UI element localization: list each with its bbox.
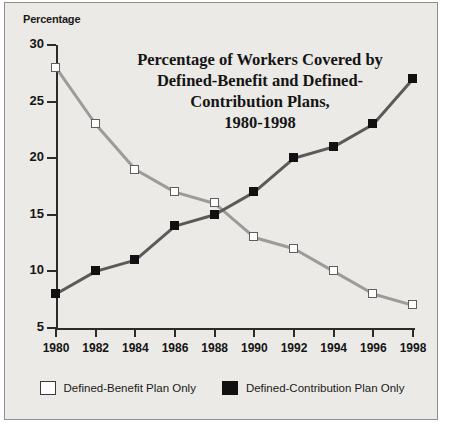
x-tick-mark	[174, 328, 176, 337]
chart-title: Percentage of Workers Covered byDefined-…	[125, 49, 395, 133]
x-tick-mark	[412, 328, 414, 337]
x-axis-line	[56, 328, 415, 330]
chart-title-line: Contribution Plans,	[125, 91, 395, 112]
data-point	[329, 266, 338, 275]
y-tick-label: 30	[10, 36, 44, 51]
data-point	[51, 63, 60, 72]
legend-label: Defined-Benefit Plan Only	[64, 382, 196, 394]
data-point	[130, 165, 139, 174]
data-point	[170, 187, 179, 196]
data-point	[368, 289, 377, 298]
data-point	[329, 142, 338, 151]
x-tick-mark	[134, 328, 136, 337]
y-tick-label: 5	[10, 319, 44, 334]
data-point	[51, 289, 60, 298]
x-tick-label: 1998	[383, 341, 443, 355]
y-tick-label: 20	[10, 149, 44, 164]
x-tick-mark	[372, 328, 374, 337]
data-point	[249, 187, 258, 196]
y-tick-mark	[47, 270, 56, 272]
y-tick-mark	[47, 44, 56, 46]
data-point	[91, 119, 100, 128]
data-point	[210, 198, 219, 207]
x-tick-mark	[333, 328, 335, 337]
x-tick-mark	[95, 328, 97, 337]
data-point	[289, 244, 298, 253]
legend-swatch-open-square-icon	[40, 381, 56, 395]
data-point	[249, 232, 258, 241]
chart-frame: Percentage 30252015105 19801982198419861…	[4, 2, 438, 420]
x-tick-mark	[253, 328, 255, 337]
chart-title-line: 1980-1998	[125, 112, 395, 133]
chart-title-line: Percentage of Workers Covered by	[125, 49, 395, 70]
data-point	[170, 221, 179, 230]
data-point	[289, 153, 298, 162]
legend-swatch-filled-square-icon	[222, 381, 238, 395]
data-point	[408, 74, 417, 83]
x-tick-mark	[293, 328, 295, 337]
y-tick-label: 10	[10, 262, 44, 277]
x-tick-mark	[55, 328, 57, 337]
data-point	[210, 210, 219, 219]
y-tick-mark	[47, 101, 56, 103]
y-tick-label: 25	[10, 93, 44, 108]
data-point	[91, 266, 100, 275]
y-tick-mark	[47, 157, 56, 159]
y-axis-label: Percentage	[23, 13, 80, 25]
y-tick-label: 15	[10, 206, 44, 221]
legend-item[interactable]: Defined-Contribution Plan Only	[222, 381, 405, 395]
chart-title-line: Defined-Benefit and Defined-	[125, 70, 395, 91]
chart-legend: Defined-Benefit Plan OnlyDefined-Contrib…	[5, 381, 439, 395]
x-tick-mark	[214, 328, 216, 337]
data-point	[408, 300, 417, 309]
legend-label: Defined-Contribution Plan Only	[246, 382, 405, 394]
legend-item[interactable]: Defined-Benefit Plan Only	[40, 381, 196, 395]
y-tick-mark	[47, 214, 56, 216]
data-point	[130, 255, 139, 264]
